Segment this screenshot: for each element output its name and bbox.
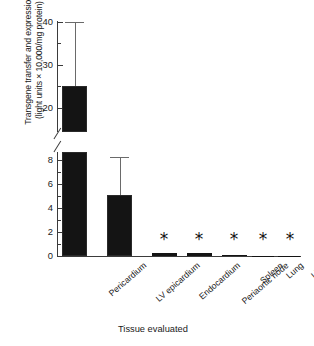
bar-pericardium-upper bbox=[62, 86, 87, 132]
x-axis-line bbox=[57, 256, 301, 257]
y-tick-40 bbox=[58, 22, 63, 23]
significance-asterisk-lung: * bbox=[254, 231, 272, 248]
y-tick-7-minor bbox=[58, 172, 61, 173]
figure-canvas: Transgene transfer and expression (light… bbox=[0, 0, 314, 346]
error-bar-line-lv-epicardium bbox=[120, 157, 121, 195]
significance-asterisk-periaortic-node: * bbox=[190, 231, 208, 248]
error-bar-cap-pericardium bbox=[65, 22, 84, 23]
y-tick-25-minor bbox=[58, 86, 61, 87]
y-ticklabel-8: 8 bbox=[33, 155, 53, 164]
y-tick-3-minor bbox=[58, 220, 61, 221]
x-axis-title: Tissue evaluated bbox=[118, 324, 188, 334]
y-tick-5-minor bbox=[58, 196, 61, 197]
significance-asterisk-endocardium: * bbox=[155, 231, 173, 248]
error-bar-cap-lv-epicardium bbox=[110, 157, 129, 158]
bar-lv-epicardium bbox=[107, 195, 132, 256]
y-ticklabel-30: 30 bbox=[33, 60, 53, 69]
x-ticklabel-endocardium: Endocardium bbox=[198, 261, 243, 301]
bar-spleen bbox=[222, 255, 247, 256]
y-axis-line-upper bbox=[57, 21, 58, 132]
y-tick-30 bbox=[58, 65, 63, 66]
x-ticklabel-lv-epicardium: LV epicardium bbox=[154, 261, 201, 304]
significance-asterisk-liver: * bbox=[281, 231, 299, 248]
y-ticklabel-40: 40 bbox=[33, 17, 53, 26]
y-ticklabel-20: 20 bbox=[33, 103, 53, 112]
bar-pericardium-lower bbox=[62, 152, 87, 256]
error-bar-line-pericardium bbox=[75, 22, 76, 86]
y-tick-1-minor bbox=[58, 244, 61, 245]
x-ticklabel-pericardium: Pericardium bbox=[107, 261, 148, 298]
y-ticklabel-2: 2 bbox=[33, 227, 53, 236]
y-ticklabel-6: 6 bbox=[33, 179, 53, 188]
y-ticklabel-0: 0 bbox=[33, 251, 53, 260]
bar-periaortic-node bbox=[187, 253, 212, 256]
axis-break-mark-lower bbox=[54, 141, 62, 153]
y-axis-line-lower bbox=[57, 152, 58, 257]
y-tick-35-minor bbox=[58, 43, 61, 44]
y-ticklabel-4: 4 bbox=[33, 203, 53, 212]
bar-endocardium bbox=[152, 253, 177, 256]
significance-asterisk-spleen: * bbox=[225, 231, 243, 248]
x-ticklabel-liver: Liver bbox=[310, 261, 314, 280]
